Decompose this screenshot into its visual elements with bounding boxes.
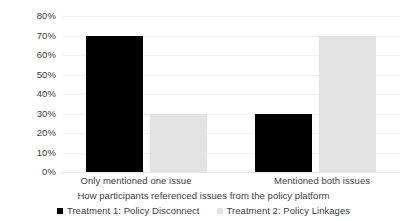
y-axis-tick-label: 20%: [0, 128, 56, 138]
y-axis-tick-label: 0%: [0, 167, 56, 177]
bar-1-1[interactable]: [319, 36, 376, 173]
legend-item-treatment-2[interactable]: Treatment 2: Policy Linkages: [217, 205, 351, 216]
legend-label: Treatment 2: Policy Linkages: [227, 205, 351, 216]
y-axis-tick-label: 70%: [0, 31, 56, 41]
chart-legend: Treatment 1: Policy Disconnect Treatment…: [0, 205, 407, 216]
y-axis-tick-label: 50%: [0, 70, 56, 80]
y-axis-tick-label: 40%: [0, 89, 56, 99]
x-axis-category-label: Only mentioned one issue: [62, 175, 210, 186]
bar-0-1[interactable]: [255, 114, 312, 173]
y-axis-tick-label: 10%: [0, 148, 56, 158]
legend-item-treatment-1[interactable]: Treatment 1: Policy Disconnect: [57, 205, 200, 216]
gridline: [62, 16, 400, 17]
legend-swatch-icon: [57, 208, 63, 214]
y-axis-tick-labels: 80% 70% 60% 50% 40% 30% 20% 10% 0%: [0, 0, 56, 221]
bar-0-0[interactable]: [86, 36, 143, 173]
x-axis-title: How participants referenced issues from …: [0, 190, 407, 201]
bar-1-0[interactable]: [150, 114, 207, 173]
y-axis-tick-label: 80%: [0, 11, 56, 21]
y-axis-tick-label: 30%: [0, 109, 56, 119]
legend-label: Treatment 1: Policy Disconnect: [67, 205, 200, 216]
legend-swatch-icon: [217, 208, 223, 214]
y-axis-tick-label: 60%: [0, 50, 56, 60]
bar-chart: 80% 70% 60% 50% 40% 30% 20% 10% 0% Only …: [0, 0, 407, 221]
gridline: [62, 172, 400, 173]
x-axis-category-label: Mentioned both issues: [248, 175, 396, 186]
plot-area: [62, 16, 400, 172]
